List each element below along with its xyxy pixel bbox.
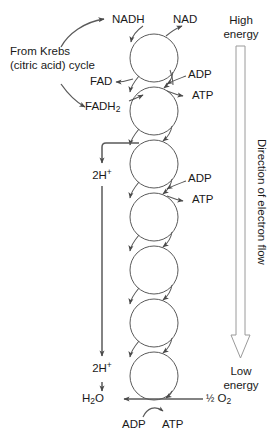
arc-c1-to-c2-left xyxy=(130,76,139,92)
label-nadh: NADH xyxy=(112,13,145,26)
carrier-circle-4 xyxy=(130,193,178,241)
hollow-down-arrow xyxy=(231,46,250,358)
label-protons-upper: 2H+ xyxy=(92,169,112,183)
label-fad: FAD xyxy=(90,75,112,88)
label-protons-upper-charge: + xyxy=(107,167,112,177)
label-from-krebs-line1: From Krebs xyxy=(10,45,95,59)
label-protons-lower-text: 2H xyxy=(92,362,107,374)
carrier-circles xyxy=(130,34,178,400)
label-low-energy: Low energy xyxy=(223,365,258,392)
carrier-circle-5 xyxy=(130,246,178,294)
label-adp-complex1: ADP xyxy=(188,68,212,81)
label-half-oxygen-element: O xyxy=(218,392,227,404)
energy-gradient-arrow xyxy=(231,46,250,358)
carrier-circle-3 xyxy=(130,140,178,188)
label-atp-complex2: ATP xyxy=(192,193,214,206)
terminal-reaction xyxy=(124,399,203,417)
label-from-krebs-line2: (citric acid) cycle xyxy=(10,59,95,73)
carrier-circle-2 xyxy=(130,87,178,135)
label-from-krebs: From Krebs (citric acid) cycle xyxy=(10,45,95,72)
label-high-energy: High energy xyxy=(223,14,258,41)
carrier-circle-6 xyxy=(130,299,178,347)
label-half-oxygen: ½ O2 xyxy=(206,392,231,406)
label-low-energy-line2: energy xyxy=(223,379,258,393)
label-water: H2O xyxy=(82,392,104,406)
carrier-circle-1 xyxy=(130,34,178,82)
arc-adp-to-atp-bottom xyxy=(143,408,163,417)
label-fadh2-text: FADH xyxy=(85,100,116,112)
label-protons-upper-text: 2H xyxy=(92,169,107,181)
arc-c1-to-nad xyxy=(166,26,182,36)
arc-c1-to-atp1 xyxy=(167,91,183,96)
arc-c4-to-c5-left xyxy=(130,235,139,251)
arc-fadh2-to-c2 xyxy=(129,95,143,101)
arc-adp1-to-c1 xyxy=(167,76,186,84)
label-half-oxygen-fraction: ½ xyxy=(206,393,214,404)
label-atp-complex1: ATP xyxy=(192,89,214,102)
label-adp-bottom: ADP xyxy=(122,418,146,431)
arrow-krebs-to-nadh xyxy=(61,19,104,47)
label-direction-of-electron-flow: Direction of electron flow xyxy=(256,139,268,265)
label-nad: NAD xyxy=(173,13,197,26)
label-atp-bottom: ATP xyxy=(162,418,184,431)
electron-transport-chain-diagram: NADH NAD From Krebs (citric acid) cycle … xyxy=(0,0,273,439)
arc-fad-from-c1 xyxy=(116,79,133,82)
label-fadh2-subscript: 2 xyxy=(116,104,121,114)
branch-upper-2h-line xyxy=(102,143,139,163)
label-water-subscript: 2 xyxy=(90,396,95,406)
label-adp-complex2: ADP xyxy=(188,172,212,185)
label-fadh2: FADH2 xyxy=(85,100,120,114)
label-water-o: O xyxy=(95,392,104,404)
arc-c5-to-c6-left xyxy=(130,288,139,304)
arc-nadh-to-c1 xyxy=(131,26,143,42)
arc-c6-to-c7-left xyxy=(130,341,139,357)
label-half-oxygen-subscript: 2 xyxy=(227,396,232,406)
label-high-energy-line1: High xyxy=(223,14,258,28)
arc-c3-to-c4-left xyxy=(130,182,139,198)
label-protons-lower: 2H+ xyxy=(92,362,112,376)
arrow-krebs-to-fadh2 xyxy=(61,84,85,107)
label-protons-lower-charge: + xyxy=(107,360,112,370)
label-high-energy-line2: energy xyxy=(223,28,258,42)
label-low-energy-line1: Low xyxy=(223,365,258,379)
